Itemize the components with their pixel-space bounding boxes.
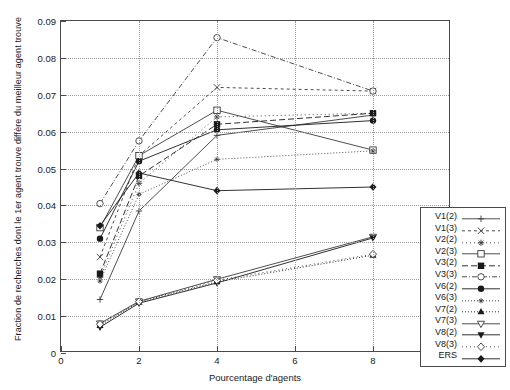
legend-item-v62[interactable]: V6(2) — [423, 281, 503, 293]
gridline-vertical — [139, 21, 140, 351]
chart-legend: V1(2)V1(3)V2(2)V2(3)V3(2)V3(3)V6(2)V6(3)… — [420, 207, 506, 367]
legend-label: V8(3) — [423, 339, 460, 351]
legend-label: V2(3) — [423, 246, 460, 258]
legend-item-v12[interactable]: V1(2) — [423, 211, 503, 223]
gridline-horizontal — [61, 242, 449, 243]
legend-label: V3(2) — [423, 257, 460, 269]
x-tick-mark — [373, 346, 374, 351]
x-tick-mark — [139, 346, 140, 351]
legend-label: V8(2) — [423, 327, 460, 339]
y-tick-label: 0.02 — [38, 274, 57, 285]
x-tick-label: 2 — [136, 355, 141, 366]
y-tick-mark — [61, 316, 66, 317]
chart-figure: Fraction de recherches dont le 1er agent… — [0, 0, 510, 390]
y-tick-mark — [61, 279, 66, 280]
y-tick-label: 0.09 — [38, 16, 57, 27]
legend-swatch — [460, 339, 502, 351]
y-tick-mark — [61, 95, 66, 96]
x-tick-label: 0 — [58, 355, 63, 366]
y-tick-mark — [61, 205, 66, 206]
legend-label: V2(2) — [423, 234, 460, 246]
y-tick-label: 0.03 — [38, 237, 57, 248]
data-point-cross — [97, 254, 103, 260]
data-point-filled-square — [97, 270, 103, 276]
y-axis-label: Fraction de recherches dont le 1er agent… — [13, 9, 23, 349]
y-tick-mark — [61, 58, 66, 59]
y-tick-label: 0.06 — [38, 126, 57, 137]
legend-swatch — [460, 223, 502, 235]
data-point-open-square — [478, 251, 484, 257]
x-tick-mark — [217, 346, 218, 351]
legend-swatch — [460, 292, 502, 304]
data-point-filled-circle — [478, 286, 484, 292]
legend-item-v32[interactable]: V3(2) — [423, 257, 503, 269]
y-tick-label: 0.05 — [38, 163, 57, 174]
data-point-cross — [478, 228, 484, 234]
data-point-star — [478, 239, 484, 245]
y-tick-mark — [61, 353, 66, 354]
legend-swatch — [460, 246, 502, 258]
y-tick-label: 0 — [51, 348, 56, 359]
gridline-vertical — [295, 21, 296, 351]
legend-item-v63[interactable]: V6(3) — [423, 292, 503, 304]
legend-swatch — [460, 281, 502, 293]
gridline-vertical — [217, 21, 218, 351]
gridline-horizontal — [61, 95, 449, 96]
x-tick-mark — [61, 346, 62, 351]
y-tick-mark — [61, 21, 66, 22]
data-point-plus — [97, 296, 103, 302]
legend-label: ERS — [423, 350, 460, 362]
legend-swatch — [460, 304, 502, 316]
plot-area: 00.010.020.030.040.050.060.070.080.09024… — [60, 20, 450, 352]
legend-swatch — [460, 269, 502, 281]
legend-item-v33[interactable]: V3(3) — [423, 269, 503, 281]
y-tick-label: 0.08 — [38, 52, 57, 63]
y-tick-label: 0.04 — [38, 200, 57, 211]
legend-item-v23[interactable]: V2(3) — [423, 246, 503, 258]
gridline-horizontal — [61, 58, 449, 59]
legend-swatch — [460, 257, 502, 269]
y-tick-label: 0.01 — [38, 311, 57, 322]
legend-item-v22[interactable]: V2(2) — [423, 234, 503, 246]
legend-label: V7(3) — [423, 315, 460, 327]
gridline-vertical — [373, 21, 374, 351]
legend-item-v73[interactable]: V7(3) — [423, 315, 503, 327]
data-point-filled-circle — [97, 235, 103, 241]
legend-item-ers[interactable]: ERS — [423, 350, 503, 362]
legend-item-v72[interactable]: V7(2) — [423, 304, 503, 316]
legend-item-v83[interactable]: V8(3) — [423, 339, 503, 351]
legend-swatch — [460, 234, 502, 246]
y-tick-label: 0.07 — [38, 89, 57, 100]
data-point-filled-diamond — [477, 354, 484, 362]
legend-label: V3(3) — [423, 269, 460, 281]
gridline-horizontal — [61, 205, 449, 206]
y-tick-mark — [61, 242, 66, 243]
legend-label: V1(3) — [423, 223, 460, 235]
gridline-horizontal — [61, 132, 449, 133]
data-point-open-circle — [478, 274, 484, 280]
legend-label: V1(2) — [423, 211, 460, 223]
x-tick-mark — [295, 346, 296, 351]
data-point-plus — [478, 216, 484, 222]
x-tick-label: 4 — [214, 355, 219, 366]
series-layer — [61, 21, 451, 353]
y-tick-mark — [61, 169, 66, 170]
data-point-filled-tri-up — [477, 308, 484, 314]
legend-label: V6(2) — [423, 281, 460, 293]
data-point-filled-square — [478, 262, 484, 268]
legend-swatch — [460, 350, 502, 362]
legend-swatch — [460, 315, 502, 327]
x-tick-label: 6 — [292, 355, 297, 366]
legend-swatch — [460, 211, 502, 223]
legend-swatch — [460, 327, 502, 339]
legend-item-v13[interactable]: V1(3) — [423, 223, 503, 235]
data-point-small-star — [478, 298, 483, 303]
x-axis-label: Pourcentage d'agents — [60, 372, 450, 383]
legend-label: V6(3) — [423, 292, 460, 304]
gridline-horizontal — [61, 169, 449, 170]
legend-label: V7(2) — [423, 304, 460, 316]
legend-item-v82[interactable]: V8(2) — [423, 327, 503, 339]
gridline-horizontal — [61, 316, 449, 317]
gridline-horizontal — [61, 279, 449, 280]
x-tick-label: 8 — [370, 355, 375, 366]
